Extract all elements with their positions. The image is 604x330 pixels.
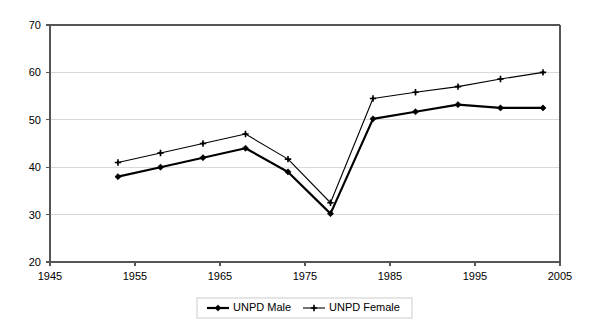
- data-point-marker-core: [414, 91, 417, 94]
- y-axis-tick-label: 50: [29, 114, 41, 126]
- y-axis-tick-label: 20: [29, 256, 41, 268]
- y-axis-tick-label: 30: [29, 209, 41, 221]
- data-point-marker-core: [542, 71, 545, 74]
- plot-area-border: [50, 25, 560, 262]
- data-point-marker: [115, 174, 121, 180]
- legend-label: UNPD Female: [329, 301, 400, 313]
- data-point-marker: [157, 164, 163, 170]
- chart-container: 203040506070 194519551965197519851995200…: [0, 0, 604, 330]
- x-axis-tick-label: 1995: [463, 270, 487, 282]
- data-point-marker-core: [287, 158, 290, 161]
- data-point-marker-core: [117, 161, 120, 164]
- x-axis-tick-label: 1965: [208, 270, 232, 282]
- series-unpd-male: [115, 102, 546, 217]
- data-point-marker-core: [372, 97, 375, 100]
- chart-legend: UNPD MaleUNPD Female: [197, 298, 412, 318]
- y-axis-tick-label: 40: [29, 161, 41, 173]
- legend-label: UNPD Male: [233, 301, 291, 313]
- series-line: [118, 72, 543, 202]
- line-chart: 203040506070 194519551965197519851995200…: [0, 0, 604, 330]
- x-axis-tick-label: 1945: [38, 270, 62, 282]
- series-unpd-female: [115, 69, 546, 206]
- y-axis-tick-label: 70: [29, 19, 41, 31]
- data-point-marker-core: [202, 142, 205, 145]
- x-axis-tick-label: 1975: [293, 270, 317, 282]
- data-point-marker: [200, 155, 206, 161]
- series-lines: [115, 69, 546, 217]
- data-point-marker-core: [159, 152, 162, 155]
- data-point-marker: [455, 102, 461, 108]
- data-point-marker-core: [499, 78, 502, 81]
- data-point-marker-core: [244, 133, 247, 136]
- y-axis-tick-label: 60: [29, 66, 41, 78]
- x-axis-tick-label: 2005: [548, 270, 572, 282]
- series-line: [118, 105, 543, 214]
- data-point-marker-core: [313, 307, 316, 310]
- y-axis-ticks: 203040506070: [29, 19, 50, 268]
- data-point-marker: [412, 109, 418, 115]
- data-point-marker: [540, 105, 546, 111]
- gridlines: [50, 72, 560, 214]
- x-axis-tick-label: 1985: [378, 270, 402, 282]
- x-axis-tick-label: 1955: [123, 270, 147, 282]
- data-point-marker-core: [457, 85, 460, 88]
- data-point-marker: [497, 105, 503, 111]
- x-axis-ticks: 1945195519651975198519952005: [38, 262, 572, 282]
- data-point-marker-core: [329, 201, 332, 204]
